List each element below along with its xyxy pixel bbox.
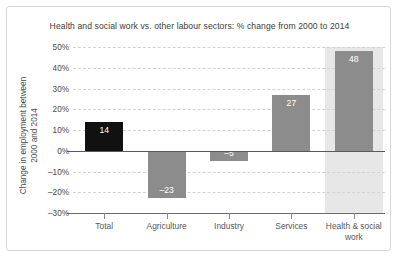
x-tick-mark xyxy=(291,213,292,219)
bar-value-label: –5 xyxy=(210,148,248,158)
zero-line xyxy=(67,151,385,152)
y-tick-label: 30% xyxy=(9,84,69,93)
bar: –23 xyxy=(148,151,186,199)
y-tick-label: 50% xyxy=(9,43,69,52)
bar-value-label: –23 xyxy=(148,185,186,195)
x-tick-label-line: Health & social xyxy=(326,221,382,231)
y-tick-label: –20% xyxy=(9,188,69,197)
plot-area: 50%40%30%20%10%0%–10%–20%–30%14–23–52748… xyxy=(73,47,385,213)
x-tick-label: Health & socialwork xyxy=(323,221,385,242)
x-tick-mark xyxy=(167,213,168,219)
bar-value-label: 48 xyxy=(335,54,373,64)
x-tick-label-line: Services xyxy=(275,221,307,231)
y-tick-label: 40% xyxy=(9,63,69,72)
x-tick-label-line: Industry xyxy=(214,221,244,231)
y-tick-label: 10% xyxy=(9,126,69,135)
x-tick-mark xyxy=(354,213,355,219)
x-tick-label: Industry xyxy=(198,221,260,232)
gridline xyxy=(73,192,385,193)
bar: 27 xyxy=(272,95,310,151)
bar-value-label: 27 xyxy=(272,98,310,108)
bar: 48 xyxy=(335,51,373,151)
y-tick-label: –10% xyxy=(9,167,69,176)
gridline xyxy=(73,47,385,48)
x-tick-label-line: Total xyxy=(95,221,113,231)
y-axis-label-line1: Change in employment between xyxy=(19,77,28,194)
y-tick-label: 20% xyxy=(9,105,69,114)
x-tick-label: Agriculture xyxy=(135,221,197,232)
chart-figure: Health and social work vs. other labour … xyxy=(6,6,391,251)
x-tick-label: Total xyxy=(73,221,135,232)
x-tick-mark xyxy=(229,213,230,219)
x-tick-label-line: work xyxy=(323,232,385,243)
x-tick-label: Services xyxy=(260,221,322,232)
bar-value-label: 14 xyxy=(85,125,123,135)
x-tick-label-line: Agriculture xyxy=(147,221,187,231)
x-axis-line xyxy=(67,213,385,214)
y-tick-label: –30% xyxy=(9,209,69,218)
bar: –5 xyxy=(210,151,248,161)
y-tick-label: 0% xyxy=(9,146,69,155)
gridline xyxy=(73,172,385,173)
chart-title: Health and social work vs. other labour … xyxy=(7,21,392,31)
bar: 14 xyxy=(85,122,123,151)
x-tick-mark xyxy=(104,213,105,219)
